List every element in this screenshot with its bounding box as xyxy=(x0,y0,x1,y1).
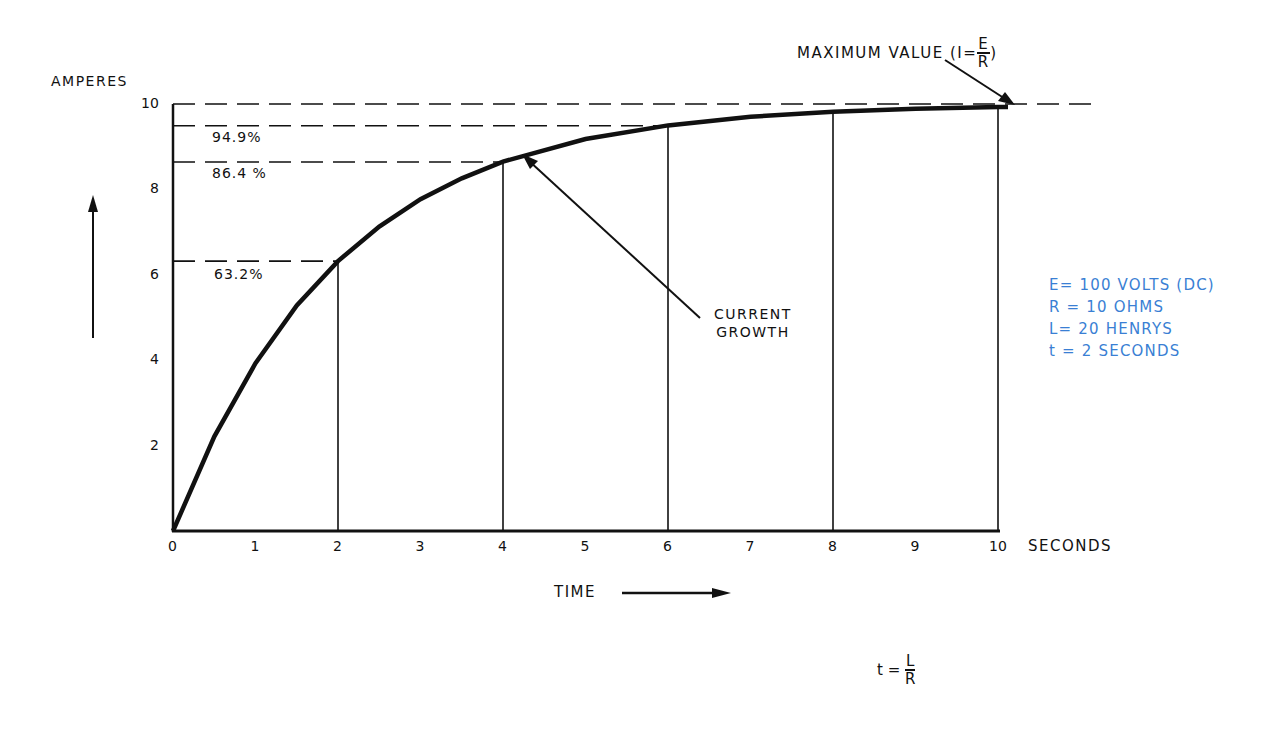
time-constant-formula: t = LR xyxy=(877,653,915,687)
x-tick-label: 4 xyxy=(498,538,507,554)
x-tick-label: 2 xyxy=(333,538,342,554)
param-inductance: L= 20 HENRYS xyxy=(1049,318,1215,340)
l-over-r-fraction: LR xyxy=(905,653,915,687)
y-tick-label: 2 xyxy=(150,437,159,453)
x-tick-label: 3 xyxy=(416,538,425,554)
y-arrow-head-icon xyxy=(88,195,98,212)
x-tick-label: 5 xyxy=(581,538,590,554)
x-tick-label: 7 xyxy=(746,538,755,554)
y-axis-label: AMPERES xyxy=(51,73,128,89)
chart-canvas xyxy=(0,0,1283,732)
x-tick-label: 9 xyxy=(911,538,920,554)
x-tick-label: 1 xyxy=(251,538,260,554)
y-tick-label: 8 xyxy=(150,180,159,196)
maximum-value-text: MAXIMUM VALUE (I= xyxy=(797,44,977,62)
pct-94-9-label: 94.9% xyxy=(212,129,261,145)
current-growth-curve xyxy=(173,107,1008,531)
x-axis-label: TIME xyxy=(554,583,596,601)
fraction-denominator: R xyxy=(977,54,990,70)
vertical-markers xyxy=(338,107,998,531)
curve-pointer-line xyxy=(528,160,700,318)
current-growth-line1: CURRENT xyxy=(714,305,792,323)
pct-86-4-label: 86.4 % xyxy=(212,165,267,181)
formula-numerator: L xyxy=(905,653,915,671)
circuit-parameters: E= 100 VOLTS (DC) R = 10 OHMS L= 20 HENR… xyxy=(1049,274,1215,362)
param-voltage: E= 100 VOLTS (DC) xyxy=(1049,274,1215,296)
maximum-value-close: ) xyxy=(990,44,997,62)
current-growth-line2: GROWTH xyxy=(714,323,792,341)
reference-lines xyxy=(173,104,1098,261)
pct-63-2-label: 63.2% xyxy=(214,266,263,282)
e-over-r-fraction: ER xyxy=(977,36,990,70)
y-tick-label: 6 xyxy=(150,266,159,282)
param-time-constant: t = 2 SECONDS xyxy=(1049,340,1215,362)
x-tick-label: 8 xyxy=(828,538,837,554)
x-unit-label: SECONDS xyxy=(1028,537,1112,555)
param-resistance: R = 10 OHMS xyxy=(1049,296,1215,318)
x-tick-label: 0 xyxy=(168,538,177,554)
formula-lhs: t = xyxy=(877,661,900,679)
time-arrow-head-icon xyxy=(712,588,731,598)
y-tick-label: 4 xyxy=(150,351,159,367)
maximum-value-label: MAXIMUM VALUE (I=ER) xyxy=(797,36,998,70)
current-growth-label: CURRENT GROWTH xyxy=(714,305,792,341)
x-tick-label: 10 xyxy=(989,538,1007,554)
fraction-numerator: E xyxy=(977,36,990,54)
maximum-pointer-arrow-icon xyxy=(998,92,1015,105)
x-tick-label: 6 xyxy=(663,538,672,554)
formula-denominator: R xyxy=(905,671,915,687)
y-tick-label: 10 xyxy=(141,95,159,111)
